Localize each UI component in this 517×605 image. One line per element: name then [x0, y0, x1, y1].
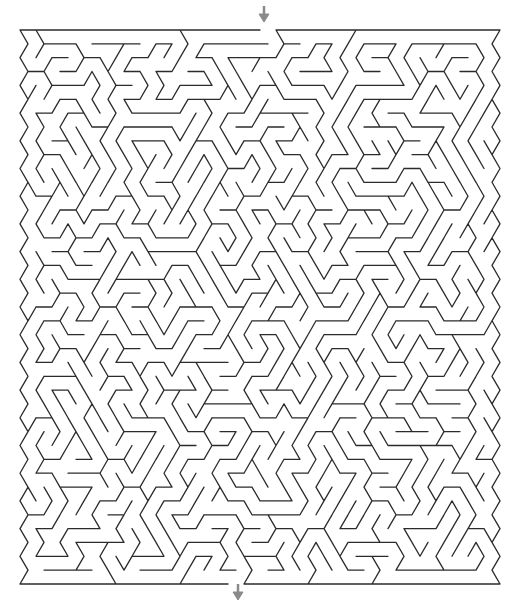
maze-board [0, 0, 517, 605]
maze-walls [20, 30, 500, 584]
exit-arrow-icon [233, 584, 243, 600]
entrance-arrow-icon [259, 6, 269, 22]
maze-wall-path [20, 30, 500, 584]
